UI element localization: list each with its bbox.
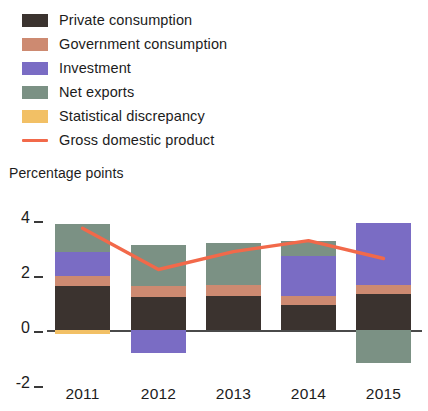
bar-segment xyxy=(356,294,411,330)
legend-swatch-icon xyxy=(22,38,48,51)
x-axis-tick-label: 2013 xyxy=(204,385,264,403)
y-axis-tick-mark xyxy=(34,386,43,388)
legend-swatch-icon xyxy=(22,62,48,75)
chart-figure: Private consumptionGovernment consumptio… xyxy=(0,0,428,411)
y-axis-tick-mark xyxy=(34,276,43,278)
legend-swatch-icon xyxy=(22,110,48,123)
legend-item[interactable]: Government consumption xyxy=(22,32,422,56)
bar-segment xyxy=(281,305,336,330)
legend-item-label: Private consumption xyxy=(59,12,192,29)
legend-item[interactable]: Gross domestic product xyxy=(22,128,422,152)
bar-segment xyxy=(206,285,261,296)
legend-item-label: Government consumption xyxy=(59,36,227,53)
bar-segment xyxy=(55,252,110,277)
y-axis-tick-label: 4 xyxy=(4,209,30,227)
bar-segment xyxy=(281,296,336,306)
bar-segment xyxy=(356,285,411,295)
legend-line-icon xyxy=(22,134,48,147)
y-axis-tick-label: 2 xyxy=(4,264,30,282)
bar-segment xyxy=(206,243,261,284)
bar-segment xyxy=(356,223,411,285)
legend-item-label: Statistical discrepancy xyxy=(59,108,205,125)
legend-item-label: Gross domestic product xyxy=(59,132,214,149)
legend-item[interactable]: Private consumption xyxy=(22,8,422,32)
bar-segment xyxy=(55,286,110,330)
bar-segment xyxy=(131,245,186,286)
x-axis-tick-label: 2012 xyxy=(129,385,189,403)
legend-swatch-icon xyxy=(22,86,48,99)
y-axis-tick-label: 0 xyxy=(4,319,30,337)
x-axis-tick-label: 2014 xyxy=(279,385,339,403)
legend-item-label: Investment xyxy=(59,60,131,77)
y-axis-tick-mark xyxy=(34,221,43,223)
bar-segment xyxy=(206,296,261,330)
legend-swatch-icon xyxy=(22,14,48,27)
legend-item-label: Net exports xyxy=(59,84,134,101)
legend-item[interactable]: Net exports xyxy=(22,80,422,104)
bar-segment xyxy=(55,276,110,286)
y-axis-tick-mark xyxy=(34,331,43,333)
legend-item[interactable]: Statistical discrepancy xyxy=(22,104,422,128)
bar-segment xyxy=(55,224,110,252)
bar-segment xyxy=(281,256,336,296)
bar-segment xyxy=(281,241,336,256)
bar-segment xyxy=(131,297,186,330)
legend-line-marker xyxy=(22,139,48,142)
y-axis-title: Percentage points xyxy=(9,165,124,181)
bar-segment xyxy=(131,330,186,353)
x-axis-tick-label: 2015 xyxy=(354,385,414,403)
zero-baseline xyxy=(47,330,422,332)
bar-segment xyxy=(131,286,186,297)
chart-legend: Private consumptionGovernment consumptio… xyxy=(22,8,422,152)
gdp-line-path xyxy=(83,228,384,269)
y-axis-tick-label: -2 xyxy=(4,374,30,392)
bar-segment xyxy=(356,330,411,363)
x-axis-tick-label: 2011 xyxy=(53,385,113,403)
bar-segment xyxy=(55,330,110,334)
legend-item[interactable]: Investment xyxy=(22,56,422,80)
